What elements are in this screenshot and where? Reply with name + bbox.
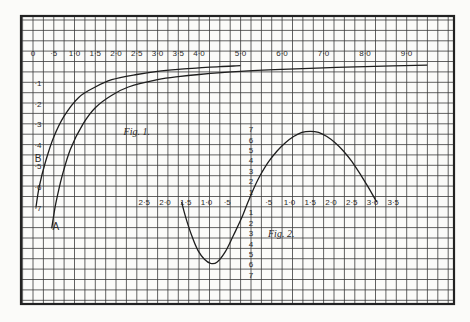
- fig2-y-tick-label-down: 7: [249, 271, 254, 280]
- fig2-caption: Fig. 2.: [267, 228, 294, 239]
- fig2-x-tick-label: 2·5: [346, 198, 358, 207]
- fig2-x-tick-label: 3·0: [367, 198, 379, 207]
- fig1-x-tick-label: 8·0: [359, 49, 371, 58]
- fig2-x-tick-label: 2·0: [325, 198, 337, 207]
- fig2-y-tick-label-down: 5: [249, 250, 254, 259]
- fig2-y-tick-label-down: 3: [249, 229, 254, 238]
- figure-plot: 0·51·01·52·02·53·03·54·05·06·07·08·09·0·…: [0, 0, 470, 322]
- fig2-x-tick-label: 2·0: [159, 198, 171, 207]
- fig1-y-tick-label: ·1: [34, 79, 42, 88]
- fig1-x-tick-label: 1·5: [89, 49, 101, 58]
- fig1-caption: Fig. 1.: [123, 126, 150, 137]
- fig2-y-tick-label-down: 4: [249, 240, 254, 249]
- fig2-x-tick-label: 3·5: [387, 198, 399, 207]
- fig1-x-tick-label: 4·0: [193, 49, 205, 58]
- fig2-y-tick-label-up: 4: [249, 156, 254, 165]
- fig1-y-tick-label: ·3: [34, 120, 42, 129]
- fig2-x-tick-label: ·5: [224, 198, 232, 207]
- fig1-x-tick-label: 1·0: [69, 49, 81, 58]
- fig2-x-tick-label: 1·0: [284, 198, 296, 207]
- fig1-x-tick-label: 5·0: [235, 49, 247, 58]
- fig1-x-tick-label: 0: [31, 49, 36, 58]
- fig1-x-tick-label: ·5: [50, 49, 58, 58]
- fig1-x-tick-label: 2·5: [131, 49, 143, 58]
- fig1-x-tick-label: 3·0: [152, 49, 164, 58]
- curve-label-a: A: [52, 221, 59, 232]
- fig1-x-tick-label: 7·0: [318, 49, 330, 58]
- fig1-x-tick-label: 6·0: [276, 49, 288, 58]
- fig2-x-tick-label: 2·5: [138, 198, 150, 207]
- fig2-x-tick-label: 1·5: [304, 198, 316, 207]
- fig2-y-tick-label-down: 6: [249, 260, 254, 269]
- fig1-x-tick-label: 3·5: [172, 49, 184, 58]
- fig2-y-tick-label-down: 2: [249, 219, 254, 228]
- fig1-y-tick-label: ·4: [34, 141, 42, 150]
- fig1-y-tick-label: ·2: [34, 100, 42, 109]
- fig2-y-tick-label-up: 7: [249, 125, 254, 134]
- fig1-x-tick-label: 2·0: [110, 49, 122, 58]
- graph-paper-grid: [21, 16, 454, 304]
- fig2-y-tick-label-up: 5: [249, 146, 254, 155]
- curve-label-b: B: [35, 153, 42, 164]
- fig2-y-tick-label-up: 2: [249, 177, 254, 186]
- fig1-y-tick-label: ·7: [34, 204, 42, 213]
- fig2-y-tick-label-up: 6: [249, 136, 254, 145]
- fig2-y-tick-label-down: 1: [249, 208, 254, 217]
- fig2-x-tick-label: 1·0: [201, 198, 213, 207]
- outer-border: [21, 16, 454, 304]
- fig2-y-tick-label-up: 3: [249, 167, 254, 176]
- fig2-x-tick-label: ·5: [265, 198, 273, 207]
- fig2-plot: 2·52·01·51·0·5·51·01·52·02·53·03·5123456…: [138, 125, 399, 280]
- fig1-x-tick-label: 9·0: [401, 49, 413, 58]
